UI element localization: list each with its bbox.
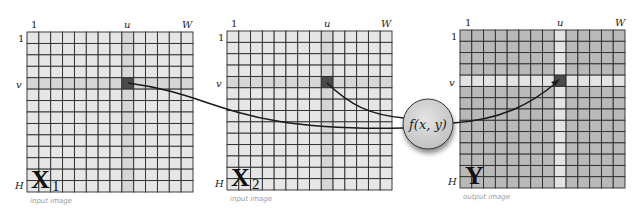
col-label-first: 1 xyxy=(465,17,471,28)
pixel-cell xyxy=(251,99,263,110)
pixel-cell xyxy=(157,181,169,192)
pixel-cell xyxy=(321,65,333,76)
pixel-cell xyxy=(51,32,63,43)
pixel-cell xyxy=(251,156,263,167)
pixel-cell xyxy=(122,32,134,43)
pixel-cell xyxy=(472,132,484,143)
pixel-cell xyxy=(484,177,496,188)
pixel-cell xyxy=(357,88,369,99)
pixel-cell xyxy=(110,32,122,43)
pixel-cell xyxy=(566,143,578,154)
pixel-cell xyxy=(554,154,566,165)
pixel-cell xyxy=(368,167,380,178)
pixel-cell xyxy=(578,109,590,120)
pixel-cell xyxy=(251,42,263,53)
pixel-cell xyxy=(122,101,134,112)
pixel-cell xyxy=(51,78,63,89)
pixel-cell xyxy=(63,43,75,54)
pixel-cell xyxy=(590,98,602,109)
pixel-cell xyxy=(262,99,274,110)
pixel-cell xyxy=(74,101,86,112)
pixel-cell xyxy=(74,123,86,134)
pixel-cell xyxy=(613,132,625,143)
pixel-cell xyxy=(357,145,369,156)
pixel-cell xyxy=(380,42,392,53)
pixel-cell xyxy=(74,78,86,89)
pixel-cell xyxy=(566,86,578,97)
pixel-cell xyxy=(286,111,298,122)
pixel-cell xyxy=(251,54,263,65)
pixel-cell xyxy=(251,88,263,99)
pixel-cell xyxy=(507,120,519,131)
pixel-cell xyxy=(122,158,134,169)
pixel-cell xyxy=(613,75,625,86)
pixel-cell xyxy=(286,76,298,87)
pixel-cell xyxy=(274,42,286,53)
pixel-cell xyxy=(86,146,98,157)
pixel-cell xyxy=(146,89,158,100)
pixel-cell xyxy=(333,167,345,178)
pixel-cell xyxy=(310,42,322,53)
pixel-cell xyxy=(578,120,590,131)
pixel-cell xyxy=(110,135,122,146)
pixel-cell xyxy=(543,120,555,131)
pixel-cell xyxy=(146,135,158,146)
pixel-cell xyxy=(110,169,122,180)
pixel-cell xyxy=(495,177,507,188)
pixel-cell xyxy=(27,146,39,157)
pixel-cell xyxy=(495,41,507,52)
pixel-cell xyxy=(519,86,531,97)
pixel-cell xyxy=(519,154,531,165)
pixel-cell xyxy=(239,76,251,87)
pixel-cell xyxy=(460,132,472,143)
pixel-cell xyxy=(578,30,590,41)
pixel-cell xyxy=(507,154,519,165)
pixel-cell xyxy=(86,55,98,66)
pixel-cell xyxy=(74,66,86,77)
pixel-cell xyxy=(286,54,298,65)
pixel-cell xyxy=(122,169,134,180)
pixel-cell xyxy=(460,98,472,109)
pixel-grid xyxy=(460,30,625,188)
pixel-cell xyxy=(262,156,274,167)
pixel-cell xyxy=(543,154,555,165)
pixel-cell xyxy=(169,55,181,66)
pixel-cell xyxy=(169,158,181,169)
pixel-cell xyxy=(157,78,169,89)
pixel-cell xyxy=(274,65,286,76)
pixel-cell xyxy=(181,32,193,43)
pixel-cell xyxy=(519,143,531,154)
pixel-cell xyxy=(368,99,380,110)
pixel-cell xyxy=(239,31,251,42)
pixel-cell xyxy=(27,43,39,54)
pixel-cell xyxy=(554,120,566,131)
pixel-cell xyxy=(298,156,310,167)
pixel-cell xyxy=(63,181,75,192)
pixel-cell xyxy=(578,143,590,154)
pixel-cell xyxy=(134,89,146,100)
pixel-cell xyxy=(601,177,613,188)
pixel-cell xyxy=(74,32,86,43)
pixel-cell xyxy=(86,32,98,43)
pixel-cell xyxy=(146,112,158,123)
pixel-cell xyxy=(380,167,392,178)
pixel-cell xyxy=(368,179,380,190)
pixel-cell xyxy=(310,76,322,87)
pixel-cell xyxy=(227,65,239,76)
pixel-cell xyxy=(110,66,122,77)
pixel-cell xyxy=(578,75,590,86)
pixel-cell xyxy=(321,133,333,144)
pixel-cell xyxy=(484,143,496,154)
pixel-cell xyxy=(613,109,625,120)
pixel-cell xyxy=(110,43,122,54)
function-node: f(x, y) xyxy=(403,99,453,149)
pixel-cell xyxy=(543,132,555,143)
pixel-cell xyxy=(251,76,263,87)
pixel-cell xyxy=(554,41,566,52)
pixel-cell xyxy=(251,133,263,144)
pixel-cell xyxy=(181,146,193,157)
pixel-cell xyxy=(110,181,122,192)
pixel-cell xyxy=(472,41,484,52)
pixel-cell xyxy=(566,109,578,120)
pixel-cell xyxy=(251,65,263,76)
